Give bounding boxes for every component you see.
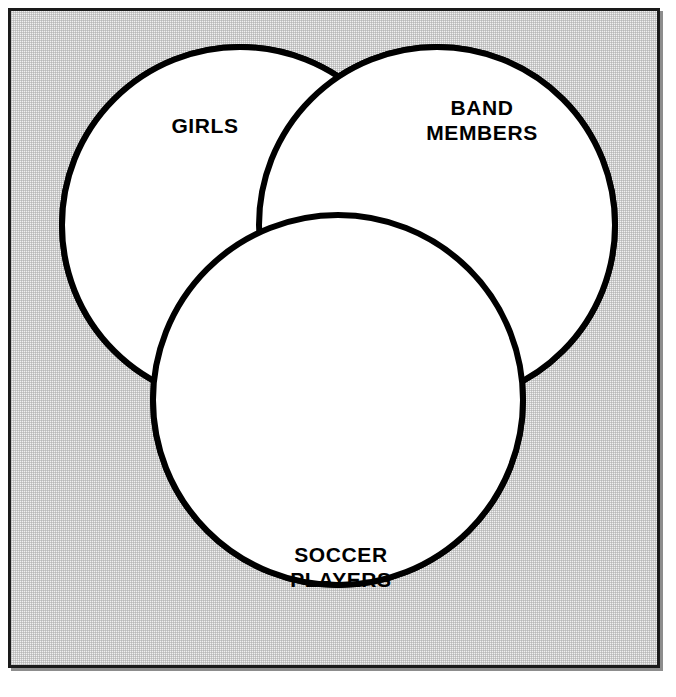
venn-canvas: HANNA YOLANDA LORENZO ANITA JESSICA JUST… bbox=[0, 0, 676, 697]
set-title-soccer-line1: SOCCER bbox=[294, 543, 387, 566]
venn-diagram-page: HANNA YOLANDA LORENZO ANITA JESSICA JUST… bbox=[0, 0, 676, 697]
set-title-girls: GIRLS bbox=[171, 114, 238, 137]
set-title-band-line1: BAND bbox=[450, 96, 513, 119]
set-title-soccer-line2: PLAYERS bbox=[290, 568, 391, 591]
set-title-band-line2: MEMBERS bbox=[426, 121, 538, 144]
circle-soccer[interactable] bbox=[153, 215, 523, 585]
